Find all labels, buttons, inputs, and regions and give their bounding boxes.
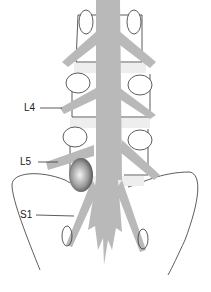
label-l5: L5 (20, 157, 31, 167)
label-l4: L4 (24, 103, 35, 113)
spine-diagram (0, 0, 211, 292)
leader-s1 (36, 215, 74, 216)
herniated-disc (69, 158, 93, 192)
label-s1: S1 (20, 210, 32, 220)
spinal-cord (96, 0, 122, 180)
